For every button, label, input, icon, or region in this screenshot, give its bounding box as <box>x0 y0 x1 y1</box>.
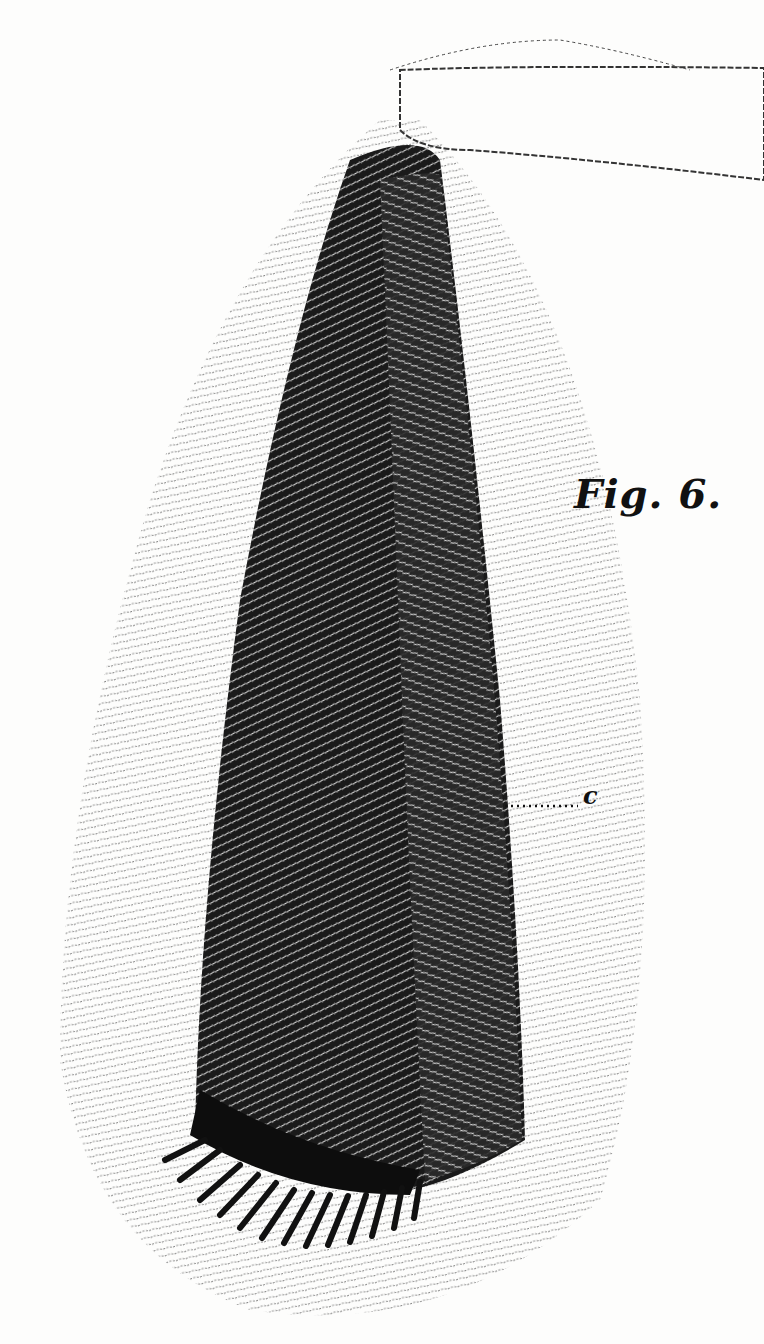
illustration-plate: Fig. 6. c <box>0 0 764 1344</box>
label-c: c <box>583 781 598 810</box>
figure-title: Fig. 6. <box>574 470 722 517</box>
leg-engraving <box>0 0 764 1344</box>
